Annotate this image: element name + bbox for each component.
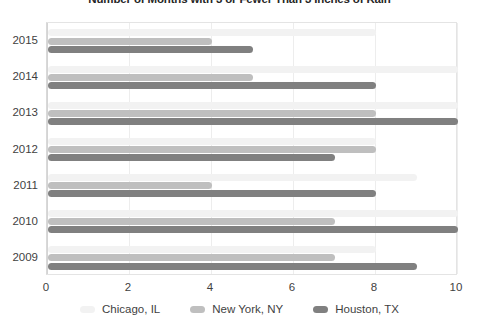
- bar-houston-2011: [48, 190, 376, 197]
- x-tick-label: 0: [43, 281, 49, 293]
- bar-new-york-2010: [48, 218, 335, 225]
- legend-swatch-icon: [80, 306, 95, 313]
- bar-houston-2015: [48, 46, 253, 53]
- x-tick-label: 6: [289, 281, 295, 293]
- legend-item-chicago[interactable]: Chicago, IL: [80, 303, 160, 315]
- y-tick-label-2014: 2014: [0, 70, 38, 82]
- chart-title: Number of Months with 3 or Fewer Than 3 …: [0, 0, 479, 5]
- legend-item-houston[interactable]: Houston, TX: [313, 303, 399, 315]
- bar-chicago-2014: [48, 66, 458, 73]
- y-tick-label-2010: 2010: [0, 215, 38, 227]
- bar-chart: Number of Months with 3 or Fewer Than 3 …: [0, 0, 479, 335]
- y-tick-label-2013: 2013: [0, 106, 38, 118]
- legend-item-label: New York, NY: [212, 303, 283, 315]
- bar-houston-2009: [48, 263, 417, 270]
- y-tick-label-2015: 2015: [0, 34, 38, 46]
- y-tick-label-2012: 2012: [0, 143, 38, 155]
- bar-chicago-2012: [48, 138, 376, 145]
- gridline-x-10: [457, 23, 458, 274]
- bar-new-york-2012: [48, 146, 376, 153]
- legend-item-label: Houston, TX: [335, 303, 399, 315]
- legend-item-label: Chicago, IL: [102, 303, 160, 315]
- bar-new-york-2009: [48, 254, 335, 261]
- x-tick-label: 4: [207, 281, 213, 293]
- bar-new-york-2011: [48, 182, 212, 189]
- x-tick-label: 8: [371, 281, 377, 293]
- x-tick-label: 2: [125, 281, 131, 293]
- legend-swatch-icon: [190, 306, 205, 313]
- legend-item-new-york[interactable]: New York, NY: [190, 303, 283, 315]
- chart-legend: Chicago, ILNew York, NYHouston, TX: [0, 303, 479, 315]
- x-tick-label: 10: [450, 281, 463, 293]
- y-tick-label-2011: 2011: [0, 179, 38, 191]
- bar-chicago-2013: [48, 102, 458, 109]
- bar-chicago-2010: [48, 210, 458, 217]
- bar-houston-2010: [48, 226, 458, 233]
- bar-houston-2014: [48, 82, 376, 89]
- bar-houston-2013: [48, 118, 458, 125]
- bar-chicago-2015: [48, 29, 376, 36]
- bar-new-york-2015: [48, 38, 212, 45]
- bar-new-york-2013: [48, 110, 376, 117]
- legend-swatch-icon: [313, 306, 328, 313]
- plot-area: [46, 22, 457, 275]
- bar-chicago-2009: [48, 246, 376, 253]
- bar-houston-2012: [48, 154, 335, 161]
- bar-new-york-2014: [48, 74, 253, 81]
- bar-chicago-2011: [48, 174, 417, 181]
- y-tick-label-2009: 2009: [0, 251, 38, 263]
